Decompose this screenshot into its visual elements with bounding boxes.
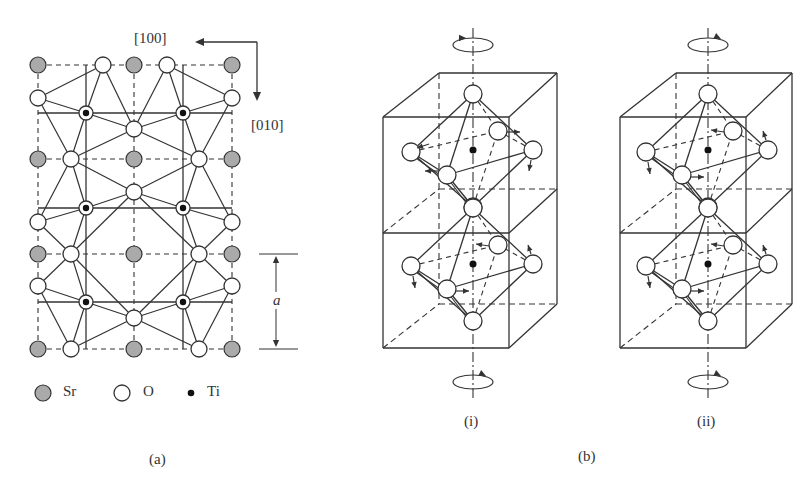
oxygen-atom — [95, 57, 111, 73]
oxygen-atom — [126, 121, 142, 137]
srtio3-octahedral-rotation-diagram — [0, 0, 812, 490]
cell-edge — [509, 189, 557, 233]
arrow-head-icon — [459, 35, 466, 41]
lattice-constant-label: a — [272, 292, 282, 309]
arrow-head-icon — [711, 128, 717, 133]
ti-o-bond — [134, 192, 199, 254]
arrow-head-icon — [273, 256, 279, 263]
caption-b: (b) — [578, 448, 596, 465]
strontium-atom — [126, 57, 142, 73]
strontium-atom — [126, 151, 142, 167]
arrow-head-icon — [253, 92, 261, 101]
strontium-atom — [224, 341, 240, 357]
oxygen-atom — [699, 199, 717, 217]
cell-edge — [620, 73, 676, 117]
arrow-head-icon — [273, 340, 279, 347]
arrow-head-icon — [762, 131, 767, 138]
oxygen-atom — [224, 90, 240, 106]
arrow-head-icon — [476, 242, 482, 247]
octahedron-edge — [473, 208, 533, 264]
oxygen-atom — [699, 85, 717, 103]
legend-sr-label: Sr — [63, 383, 76, 400]
legend-ti-icon — [188, 390, 195, 397]
oxygen-atom — [30, 90, 46, 106]
hidden-cell-edge — [620, 189, 676, 233]
hidden-cell-edge — [383, 189, 439, 233]
hidden-cell-edge — [620, 304, 676, 348]
oxygen-atom — [224, 278, 240, 294]
oxygen-atom — [159, 57, 175, 73]
strontium-atom — [224, 246, 240, 262]
legend-sr-icon — [35, 385, 51, 401]
strontium-atom — [126, 341, 142, 357]
hidden-octahedron-edge — [411, 131, 498, 152]
strontium-atom — [30, 151, 46, 167]
caption-i: (i) — [464, 413, 478, 430]
titanium-atom — [470, 147, 477, 154]
cell-edge — [509, 304, 557, 348]
arrow-head-icon — [195, 38, 204, 46]
oxygen-atom — [126, 184, 142, 200]
titanium-atom — [705, 147, 712, 154]
ti-o-bond — [38, 159, 71, 222]
cell-edge — [746, 73, 792, 117]
oxygen-atom — [524, 255, 542, 273]
arrow-head-icon — [713, 33, 721, 39]
oxygen-atom — [402, 257, 420, 275]
cell-edge — [509, 73, 557, 117]
arrow-head-icon — [698, 174, 704, 179]
titanium-atom — [180, 110, 186, 116]
oxygen-atom — [63, 341, 79, 357]
panel-b-ii-unit-cells — [620, 28, 792, 400]
oxygen-atom — [759, 141, 777, 159]
arrow-head-icon — [514, 129, 520, 134]
cell-edge — [746, 189, 792, 233]
hidden-octahedron-edge — [411, 245, 498, 266]
ti-o-bond — [199, 159, 232, 222]
cell-edge — [746, 304, 792, 348]
titanium-atom — [83, 205, 89, 211]
arrow-head-icon — [527, 245, 532, 252]
hidden-octahedron-edge — [646, 131, 733, 152]
oxygen-atom — [191, 151, 207, 167]
hidden-cell-edge — [383, 304, 439, 348]
arrow-head-icon — [711, 242, 717, 247]
direction-100-label: [100] — [134, 30, 167, 47]
oxygen-atom — [673, 280, 691, 298]
octahedron-edge — [708, 208, 768, 264]
legend-o-label: O — [143, 383, 154, 400]
arrow-head-icon — [646, 168, 651, 174]
oxygen-atom — [489, 122, 507, 140]
oxygen-atom — [438, 280, 456, 298]
ti-o-bond — [71, 192, 134, 254]
arrow-head-icon — [478, 370, 486, 376]
oxygen-atom — [126, 310, 142, 326]
ti-o-bond — [71, 318, 134, 349]
cell-edge — [383, 73, 439, 117]
oxygen-atom — [489, 236, 507, 254]
titanium-atom — [705, 261, 712, 268]
ti-o-bond — [103, 65, 134, 129]
arrow-head-icon — [762, 245, 767, 252]
titanium-atom — [180, 299, 186, 305]
oxygen-atom — [699, 312, 717, 330]
arrow-head-icon — [527, 165, 532, 171]
legend-ti-label: Ti — [207, 383, 220, 400]
arrow-head-icon — [425, 168, 431, 173]
oxygen-atom — [63, 151, 79, 167]
ti-o-bond — [71, 159, 134, 192]
strontium-atom — [30, 57, 46, 73]
oxygen-atom — [724, 122, 742, 140]
oxygen-atom — [673, 166, 691, 184]
caption-a: (a) — [149, 451, 166, 468]
oxygen-atom — [30, 214, 46, 230]
oxygen-atom — [63, 246, 79, 262]
strontium-atom — [126, 246, 142, 262]
oxygen-atom — [637, 257, 655, 275]
caption-ii: (ii) — [697, 413, 715, 430]
ti-o-bond — [134, 129, 199, 159]
oxygen-atom — [224, 214, 240, 230]
oxygen-atom — [524, 141, 542, 159]
strontium-atom — [30, 246, 46, 262]
legend-o-icon — [114, 385, 130, 401]
